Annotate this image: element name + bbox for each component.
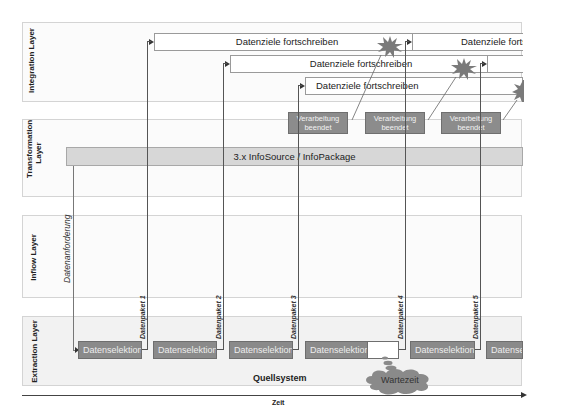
- packet-line-2: [223, 63, 224, 349]
- packet-line-4: [405, 41, 406, 349]
- data-selection-box-4: Datenselektion: [305, 341, 368, 359]
- time-axis-label: Zeit: [272, 399, 284, 406]
- packet-line-1-top: [147, 41, 151, 42]
- data-selection-box-3: Datenselektion: [229, 341, 293, 359]
- packet-line-5-top: [480, 63, 484, 64]
- packet-line-1: [147, 41, 148, 349]
- packet-tick-1: [142, 349, 148, 350]
- data-request-line: [73, 166, 74, 350]
- processing-done-box-3: Verarbeitung beendet: [441, 112, 501, 134]
- packet-tick-3: [293, 349, 299, 350]
- wait-time-label: Wartezeit: [381, 375, 419, 385]
- packet-label-4: Datenpaket 4: [397, 295, 404, 339]
- packet-label-3: Datenpaket 3: [290, 295, 297, 339]
- packet-line-3-top: [298, 85, 302, 86]
- packet-label-1: Datenpaket 1: [139, 295, 146, 339]
- time-axis: [22, 395, 522, 396]
- packet-line-3: [298, 85, 299, 349]
- packet-tick-5: [475, 349, 481, 350]
- packet-line-5: [480, 63, 481, 349]
- processing-done-box-2: Verarbeitung beendet: [365, 112, 425, 134]
- packet-label-2: Datenpaket 2: [215, 295, 222, 339]
- data-selection-box-2: Datenselektion: [153, 341, 217, 359]
- data-selection-box-1: Datenselektion: [78, 341, 142, 359]
- arrow-right-icon: [521, 392, 527, 398]
- data-request-label: Datenanforderung: [62, 214, 72, 283]
- packet-label-5: Datenpaket 5: [472, 295, 479, 339]
- processing-done-box-1: Verarbeitung beendet: [288, 112, 348, 134]
- infosource-infopackage-bar: 3.x InfoSource / InfoPackage: [66, 147, 523, 166]
- packet-tick-4: [399, 349, 406, 350]
- packet-line-4-top: [405, 41, 409, 42]
- data-selection-box-6: Datenselektion: [486, 341, 523, 359]
- packet-tick-2: [217, 349, 224, 350]
- packet-line-2-top: [223, 63, 227, 64]
- source-system-label: Quellsystem: [253, 373, 307, 383]
